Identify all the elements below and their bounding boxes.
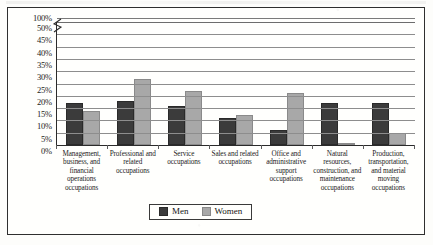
legend-label-men: Men [172,207,189,216]
x-axis-category-label: Sales and related occupations [209,150,260,192]
bar-women[interactable] [389,133,406,145]
gridline [57,133,415,134]
x-axis-category-label: Professional and related occupations [107,150,158,192]
bar-men[interactable] [168,106,185,145]
bar-men[interactable] [321,103,338,145]
chart-canvas: 100%50%45%40%35%30%25%20%15%10%5%0% Mana… [8,8,424,234]
x-axis-tick [209,145,210,149]
gridline [57,96,415,97]
legend-swatch-women-icon [202,207,211,216]
legend-swatch-men-icon [159,207,168,216]
y-axis-tick-label: 15% [37,110,52,118]
x-axis-tick [312,145,313,149]
bar-women[interactable] [134,79,151,145]
bar-women[interactable] [185,91,202,145]
axis-break-icon [52,18,64,34]
y-axis-tick-label: 45% [37,36,52,44]
gridline [57,84,415,85]
scan-edge-artifact [6,1,426,4]
x-axis-tick [414,145,415,149]
gridline [57,71,415,72]
x-axis-category-label: Office and administrative support occupa… [261,150,312,192]
legend-item-women[interactable]: Women [202,207,243,216]
gridline [57,108,415,109]
x-axis-tick [261,145,262,149]
plot-area [56,22,415,146]
x-axis-category-label: Management, business, and financial oper… [56,150,107,192]
gridline-100-percent [57,18,415,19]
y-axis-tick-label: 30% [37,73,52,81]
x-axis-category-label: Production, transportation, and material… [363,150,414,192]
gridline [57,47,415,48]
x-axis-tick [107,145,108,149]
bar-men[interactable] [372,103,389,145]
x-axis-category-label: Natural resources, construction, and mai… [312,150,363,192]
bar-men[interactable] [66,103,83,145]
chart-frame: 100%50%45%40%35%30%25%20%15%10%5%0% Mana… [7,7,425,235]
y-axis-tick-label: 50% [37,24,52,32]
x-axis-ticks [56,145,414,149]
y-axis-tick-label: 20% [37,98,52,106]
x-axis-tick [56,145,57,149]
gridline [57,59,415,60]
bar-men[interactable] [219,118,236,145]
bar-women[interactable] [83,111,100,145]
x-axis-tick [158,145,159,149]
y-axis-tick-label: 25% [37,86,52,94]
gridline [57,120,415,121]
gridline [57,34,415,35]
legend-item-men[interactable]: Men [159,207,189,216]
legend-label-women: Women [215,207,243,216]
y-axis-tick-label: 40% [37,49,52,57]
bar-women[interactable] [287,93,304,145]
y-axis-tick-label: 100% [33,14,52,22]
x-axis-category-label: Service occupations [158,150,209,192]
gridline [57,22,415,23]
y-axis-tick-label: 35% [37,61,52,69]
y-axis-tick-label: 0% [41,147,52,155]
y-axis-tick-label: 10% [37,122,52,130]
y-axis-tick-label: 5% [41,135,52,143]
chart-legend: Men Women [149,204,252,220]
x-axis-tick [363,145,364,149]
x-axis-category-labels: Management, business, and financial oper… [56,150,414,192]
